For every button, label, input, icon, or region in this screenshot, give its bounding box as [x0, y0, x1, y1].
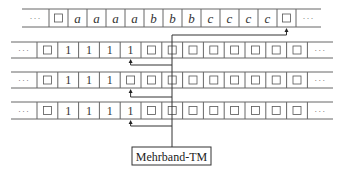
tape-cell-symbol: b: [169, 11, 176, 26]
tape-cell-blank-symbol: [127, 76, 135, 84]
tape-cell-blank-symbol: [210, 76, 218, 84]
tape-cell-symbol: b: [150, 11, 157, 26]
tape-cell-blank-symbol: [147, 107, 155, 115]
tape-cell-symbol: 1: [107, 104, 113, 118]
tape-cell-blank-symbol: [189, 46, 197, 54]
tape-cell-blank-symbol: [293, 76, 301, 84]
tape-cell-blank-symbol: [293, 107, 301, 115]
tape-cell-symbol: a: [131, 11, 138, 26]
machine-box: Mehrband-TM: [132, 147, 211, 165]
tape-cell-blank-symbol: [189, 107, 197, 115]
tape-cell-symbol: 1: [65, 43, 71, 57]
tape-cell-symbol: a: [112, 11, 119, 26]
head-arrow-3: [129, 89, 172, 97]
tape-cell-blank-symbol: [283, 14, 291, 22]
tape-cell-blank-symbol: [251, 46, 259, 54]
head-arrow-4: [129, 120, 172, 126]
tape-cell-symbol: c: [227, 11, 233, 26]
tape-cell-symbol: a: [93, 11, 100, 26]
tape-cell-blank-symbol: [251, 107, 259, 115]
tape-cell-blank-symbol: [231, 76, 239, 84]
tape-cell-symbol: 1: [128, 43, 134, 57]
tape-cell-blank-symbol: [293, 46, 301, 54]
head-connector-line: [172, 31, 287, 35]
tape-cell-symbol: 1: [107, 43, 113, 57]
tape-cell-symbol: c: [246, 11, 252, 26]
arrowhead-icon: [129, 89, 133, 93]
tape-cell-blank-symbol: [189, 76, 197, 84]
tape-cell-symbol: 1: [86, 104, 92, 118]
tape-cell-blank-symbol: [231, 46, 239, 54]
tape-cell-symbol: 1: [86, 43, 92, 57]
head-connector-line: [131, 123, 172, 126]
machine-label: Mehrband-TM: [136, 150, 208, 164]
tape-cell-blank-symbol: [43, 107, 51, 115]
tape-cell-symbol: b: [188, 11, 195, 26]
arrowhead-icon: [285, 28, 289, 32]
tape-cell-blank-symbol: [210, 46, 218, 54]
tape-cell-blank-symbol: [272, 46, 280, 54]
tape-cell-blank-symbol: [272, 107, 280, 115]
head-arrow-1: [172, 28, 289, 35]
tape-cell-symbol: 1: [65, 104, 71, 118]
arrowhead-icon: [129, 59, 133, 63]
tape-cell-symbol: 1: [128, 104, 134, 118]
tape-ellipsis-right: ···: [314, 45, 326, 55]
tape-ellipsis-right: ···: [314, 75, 326, 85]
multitape-turing-machine-diagram: ···aaaabbbcccc······1111······111······1…: [0, 0, 344, 178]
tape-ellipsis-left: ···: [30, 13, 42, 23]
head-connector-line: [131, 62, 172, 65]
tape-cell-blank-symbol: [43, 76, 51, 84]
tape-ellipsis-right: ···: [303, 13, 315, 23]
tape-cell-symbol: 1: [65, 73, 71, 87]
tape-ellipsis-left: ···: [18, 75, 30, 85]
arrowhead-icon: [129, 120, 133, 124]
tape-1: ···aaaabbbcccc···: [22, 9, 321, 27]
tape-cell-blank-symbol: [251, 76, 259, 84]
tape-cell-symbol: 1: [107, 73, 113, 87]
tape-cell-symbol: a: [74, 11, 81, 26]
tape-cell-symbol: c: [265, 11, 271, 26]
tape-ellipsis-left: ···: [18, 106, 30, 116]
tape-cell-symbol: 1: [86, 73, 92, 87]
tape-cell-blank-symbol: [231, 107, 239, 115]
tape-cell-blank-symbol: [43, 46, 51, 54]
tape-cell-blank-symbol: [55, 14, 63, 22]
tape-cell-blank-symbol: [147, 46, 155, 54]
tape-cell-symbol: c: [208, 11, 214, 26]
tape-ellipsis-right: ···: [314, 106, 326, 116]
tape-cell-blank-symbol: [147, 76, 155, 84]
tape-cell-blank-symbol: [210, 107, 218, 115]
tape-cell-blank-symbol: [272, 76, 280, 84]
head-arrow-2: [129, 59, 172, 65]
tape-ellipsis-left: ···: [18, 45, 30, 55]
head-connector-line: [131, 92, 172, 97]
